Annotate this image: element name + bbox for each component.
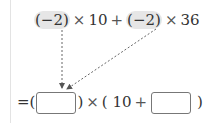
plus-sign: + [132, 93, 151, 111]
blank-box-2[interactable] [151, 92, 191, 114]
number-10: 10 [113, 93, 132, 111]
open-paren-2: ( [102, 93, 108, 111]
close-paren-2: ) [197, 93, 203, 111]
times-sign: × [83, 93, 102, 111]
factored-expression: =()×( 10+ ) [17, 92, 203, 114]
equals-open-paren: =( [17, 93, 35, 111]
blank-box-1[interactable] [36, 92, 76, 114]
